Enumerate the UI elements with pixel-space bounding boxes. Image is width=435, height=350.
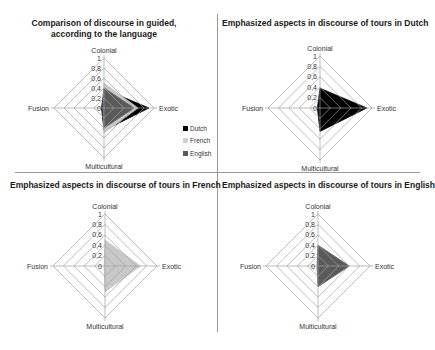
legend-label: French: [190, 137, 210, 144]
tick-label: 0,2: [307, 94, 317, 101]
radar-chart-1: 00,20,40,60,81ColonialExoticMulticultura…: [28, 47, 179, 170]
tick-label: 1: [98, 211, 102, 218]
tick-label: 1: [97, 55, 101, 62]
axis-label-colonial: Colonial: [305, 203, 331, 210]
axis-label-fusion: Fusion: [27, 263, 48, 270]
tick-label: 0,6: [305, 231, 315, 238]
radar-charts: 00,20,40,60,81ColonialExoticMulticultura…: [0, 0, 435, 350]
tick-label: 0,6: [307, 73, 317, 80]
tick-label: 0: [311, 263, 315, 270]
tick-label: 0,8: [305, 221, 315, 228]
tick-label: 0,2: [91, 95, 101, 102]
tick-label: 1: [313, 53, 317, 60]
tick-label: 1: [311, 211, 315, 218]
legend-item-dutch: Dutch: [183, 122, 211, 135]
axis-label-fusion: Fusion: [28, 105, 49, 112]
axis-label-exotic: Exotic: [159, 105, 179, 112]
tick-label: 0,8: [92, 221, 102, 228]
tick-label: 0,6: [91, 75, 101, 82]
axis-label-multicultural: Multicultural: [301, 165, 339, 172]
axis-label-multicultural: Multicultural: [299, 323, 337, 330]
legend-item-french: French: [183, 135, 211, 148]
axis-label-fusion: Fusion: [240, 263, 261, 270]
tick-label: 0: [98, 263, 102, 270]
radar-chart-3: 00,20,40,60,81ColonialExoticMulticultura…: [27, 203, 182, 330]
legend-swatch: [183, 151, 188, 156]
axis-label-exotic: Exotic: [377, 105, 397, 112]
tick-label: 0,6: [92, 231, 102, 238]
legend-label: English: [190, 150, 211, 157]
axis-label-exotic: Exotic: [375, 263, 395, 270]
tick-label: 0: [97, 105, 101, 112]
legend-swatch: [183, 126, 188, 131]
legend-swatch: [183, 138, 188, 143]
legend-label: Dutch: [190, 125, 207, 132]
legend-item-english: English: [183, 147, 211, 160]
tick-label: 0,8: [307, 63, 317, 70]
axis-label-fusion: Fusion: [242, 105, 263, 112]
tick-label: 0,8: [91, 65, 101, 72]
radar-chart-2: 00,20,40,60,81ColonialExoticMulticultura…: [242, 45, 397, 172]
axis-label-colonial: Colonial: [307, 45, 333, 52]
axis-label-exotic: Exotic: [162, 263, 182, 270]
axis-label-colonial: Colonial: [91, 47, 117, 54]
tick-label: 0,4: [307, 84, 317, 91]
tick-label: 0,4: [91, 85, 101, 92]
tick-label: 0,2: [305, 252, 315, 259]
axis-label-colonial: Colonial: [92, 203, 118, 210]
radar-chart-4: 00,20,40,60,81ColonialExoticMulticultura…: [240, 203, 395, 330]
tick-label: 0,4: [92, 242, 102, 249]
axis-label-multicultural: Multicultural: [86, 323, 124, 330]
legend: DutchFrenchEnglish: [183, 122, 211, 160]
tick-label: 0,4: [305, 242, 315, 249]
axis-label-multicultural: Multicultural: [85, 163, 123, 170]
tick-label: 0,2: [92, 252, 102, 259]
tick-label: 0: [313, 105, 317, 112]
